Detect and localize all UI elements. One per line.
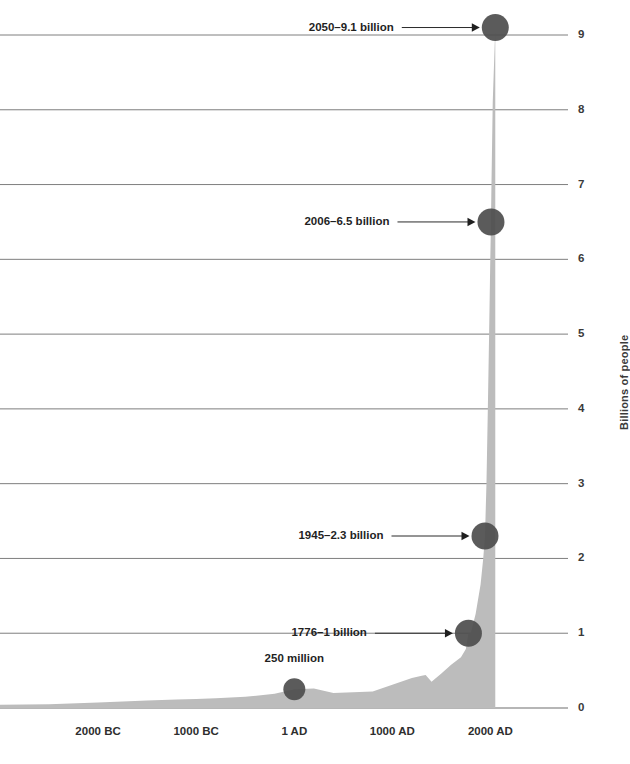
y-axis-tick-label: 7 xyxy=(578,179,585,191)
annotation-markers xyxy=(283,14,508,700)
y-axis-title: Billions of people xyxy=(618,335,630,430)
chart-plot-area xyxy=(0,0,630,764)
y-axis-tick-label: 9 xyxy=(578,29,585,41)
annotation-label: 1776–1 billion xyxy=(291,627,366,639)
annotation-label: 2006–6.5 billion xyxy=(304,216,389,228)
data-point-marker xyxy=(455,620,482,647)
annotation-arrowhead xyxy=(472,23,480,31)
annotation-label: 250 million xyxy=(265,654,324,666)
y-axis-tick-label: 0 xyxy=(578,702,585,714)
y-axis-tick-label: 6 xyxy=(578,253,585,265)
data-point-marker xyxy=(477,208,504,235)
data-point-marker xyxy=(283,678,305,700)
y-axis-tick-label: 1 xyxy=(578,627,585,639)
y-axis-tick-label: 5 xyxy=(578,328,585,340)
x-axis-tick-label: 2000 BC xyxy=(75,726,120,738)
x-axis-tick-label: 1 AD xyxy=(281,726,307,738)
y-axis-tick-label: 3 xyxy=(578,478,585,490)
annotation-label: 1945–2.3 billion xyxy=(298,530,383,542)
population-area-path xyxy=(0,28,495,708)
annotation-arrowhead xyxy=(445,629,453,637)
x-axis-tick-label: 1000 BC xyxy=(173,726,218,738)
annotation-arrowhead xyxy=(467,218,475,226)
y-axis-tick-label: 4 xyxy=(578,403,585,415)
y-axis-tick-label: 8 xyxy=(578,104,585,116)
annotation-label: 2050–9.1 billion xyxy=(309,22,394,34)
data-point-marker xyxy=(482,14,509,41)
annotation-leader-lines xyxy=(375,23,480,637)
x-axis-tick-label: 2000 AD xyxy=(468,726,513,738)
x-axis-tick-label: 1000 AD xyxy=(370,726,415,738)
y-axis-tick-label: 2 xyxy=(578,552,585,564)
population-growth-chart: 0123456789 2000 BC1000 BC1 AD1000 AD2000… xyxy=(0,0,630,764)
annotation-arrowhead xyxy=(461,532,469,540)
population-area-series xyxy=(0,28,495,708)
data-point-marker xyxy=(471,523,498,550)
